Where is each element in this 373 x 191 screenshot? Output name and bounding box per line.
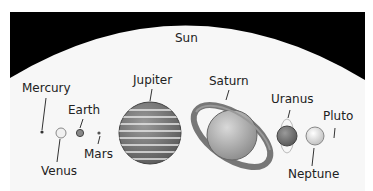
uranus-label: Uranus	[271, 93, 314, 105]
pluto-label: Pluto	[323, 110, 353, 122]
jupiter-planet	[118, 102, 182, 164]
neptune-planet	[306, 127, 324, 145]
mercury-planet	[40, 130, 43, 133]
jupiter-label: Jupiter	[133, 74, 172, 86]
mars-planet	[97, 131, 100, 134]
earth-planet	[76, 129, 83, 136]
solar-system-diagram	[0, 0, 373, 191]
saturn-label: Saturn	[209, 75, 249, 87]
sun-label: Sun	[175, 32, 198, 44]
venus-planet	[56, 128, 66, 138]
mercury-label: Mercury	[22, 82, 71, 94]
neptune-label: Neptune	[288, 168, 339, 180]
venus-label: Venus	[41, 165, 77, 177]
earth-label: Earth	[68, 104, 100, 116]
mars-label: Mars	[84, 148, 113, 160]
